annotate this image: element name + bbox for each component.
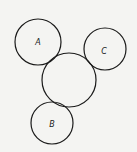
circle-center bbox=[42, 53, 96, 107]
tangent-circles-diagram: A C B bbox=[0, 0, 137, 152]
label-b: B bbox=[49, 120, 55, 129]
label-a: A bbox=[34, 38, 40, 47]
label-c: C bbox=[101, 47, 107, 56]
